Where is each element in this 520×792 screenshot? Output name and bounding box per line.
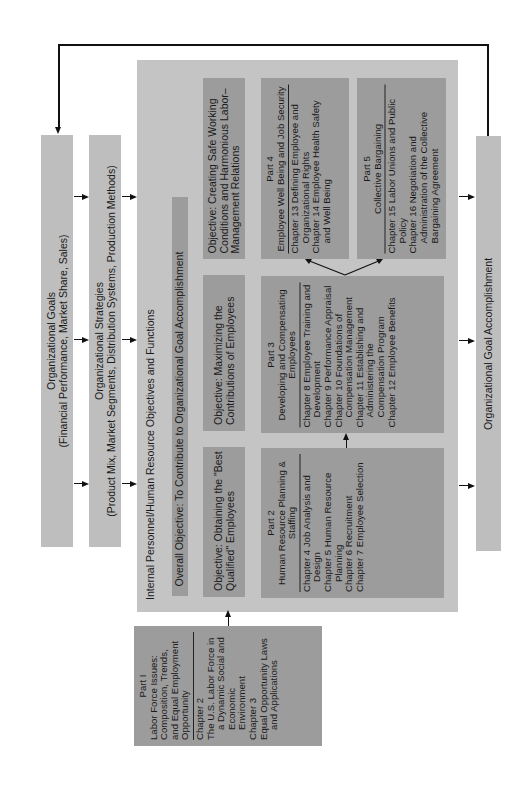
objective-2-text: Objective: Maximizing the Contributions … [213, 275, 236, 431]
arrow-right-icon [82, 194, 89, 200]
objective-1-text: Objective: Obtaining the "Best Qualified… [213, 447, 236, 597]
overall-objective-bar: Overall Objective: To Contribute to Orga… [172, 197, 188, 596]
part-2-box: Part 2 Human Resource Planning & Staffin… [261, 448, 444, 598]
part-5-label: Part 5 [361, 84, 372, 253]
chapter-item: Chapter 3 [248, 632, 259, 740]
arrow-right-icon [130, 194, 137, 200]
feedback-line-left [58, 44, 60, 128]
org-goals-title: Organizational Goals [46, 135, 58, 547]
objective-3-box: Objective: Creating Safe Working Conditi… [203, 78, 245, 259]
part-2-label: Part 2 [265, 454, 276, 592]
part-4-box: Part 4 Employee Well Being and Job Secur… [261, 78, 349, 259]
chapter-item: Chapter 6 Recruitment [343, 454, 354, 592]
part-3-title: Developing and Compensating Employees [276, 282, 297, 427]
chapter-item: Chapter 16 Negotiation and Administratio… [407, 84, 439, 253]
org-strategies-box: Organizational Strategies (Product Mix, … [89, 135, 121, 547]
part-3-label: Part 3 [265, 282, 276, 427]
part-2-title: Human Resource Planning & Staffing [276, 454, 297, 592]
arrow-down-icon [55, 127, 61, 134]
org-strategies-subtitle: (Product Mix, Market Segments, Distribut… [105, 135, 117, 547]
branch-arrows-icon [297, 256, 397, 278]
overall-objective-text: Overall Objective: To Contribute to Orga… [174, 197, 186, 596]
chapter-item: Chapter 5 Human Resource Planning [322, 454, 343, 592]
part-3-box: Part 3 Developing and Compensating Emplo… [261, 276, 444, 433]
arrow-right-icon [468, 483, 475, 489]
part-1-box: Part I Labor Force Issues: Composition, … [134, 626, 322, 746]
arrow-right-icon [82, 481, 89, 487]
part-1-title: Labor Force Issues: Composition, Trends,… [149, 632, 191, 740]
chapter-item: Chapter 11 Establishing and Administerin… [354, 282, 386, 427]
chapter-item: Equal Opportunity Laws and Applications [259, 632, 280, 740]
objective-1-box: Objective: Obtaining the "Best Qualified… [203, 447, 245, 597]
chapter-item: Chapter 2 [195, 632, 206, 740]
arrow-up-icon [343, 433, 349, 440]
chapter-item: Chapter 9 Performance Appraisal [322, 282, 333, 427]
chapter-item: Chapter 15 Labor Unions and Public Polic… [386, 84, 407, 253]
part-1-label: Part I [138, 632, 149, 740]
part-5-box: Part 5 Collective Bargaining Chapter 15 … [357, 78, 446, 259]
part-4-title: Employee Well Being and Job Security [276, 84, 287, 253]
goal-accomplishment-title: Organizational Goal Accomplishment [483, 136, 495, 551]
chapter-item: Chapter 7 Employee Selection [354, 454, 365, 592]
internal-hr-panel: Internal Personnel/Human Resource Object… [137, 60, 458, 612]
internal-panel-title: Internal Personnel/Human Resource Object… [145, 64, 157, 608]
objective-3-text: Objective: Creating Safe Working Conditi… [207, 78, 242, 259]
part-5-title: Collective Bargaining [372, 84, 383, 253]
chapter-item: Chapter 4 Job Analysis and Design [301, 454, 322, 592]
arrow-right-icon [130, 337, 137, 343]
feedback-line-top [58, 44, 489, 46]
arrow-right-icon [82, 337, 89, 343]
arrow-right-icon [468, 194, 475, 200]
part-4-label: Part 4 [265, 84, 276, 253]
arrow-up-icon [225, 610, 231, 617]
arrow-right-icon [468, 338, 475, 344]
feedback-line-right [487, 44, 489, 136]
org-strategies-title: Organizational Strategies [94, 135, 106, 547]
chapter-item: Chapter 13 Defining Employee and Organiz… [290, 84, 311, 253]
goal-accomplishment-box: Organizational Goal Accomplishment [476, 136, 501, 551]
chapter-item: Chapter 8 Employee Training and Developm… [301, 282, 322, 427]
chapter-item: Chapter 10 Foundations of Compensation M… [333, 282, 354, 427]
chapter-item: Chapter 12 Employee Benefits [386, 282, 397, 427]
arrow-right-icon [130, 481, 137, 487]
chapter-item: Chapter 14 Employee Health Safety and We… [311, 84, 332, 253]
org-goals-subtitle: (Financial Performance, Market Share, Sa… [57, 135, 69, 547]
chapter-item: The U.S. Labor Force in a Dynamic Social… [206, 632, 248, 740]
objective-2-box: Objective: Maximizing the Contributions … [203, 275, 245, 431]
org-goals-box: Organizational Goals (Financial Performa… [41, 135, 73, 547]
